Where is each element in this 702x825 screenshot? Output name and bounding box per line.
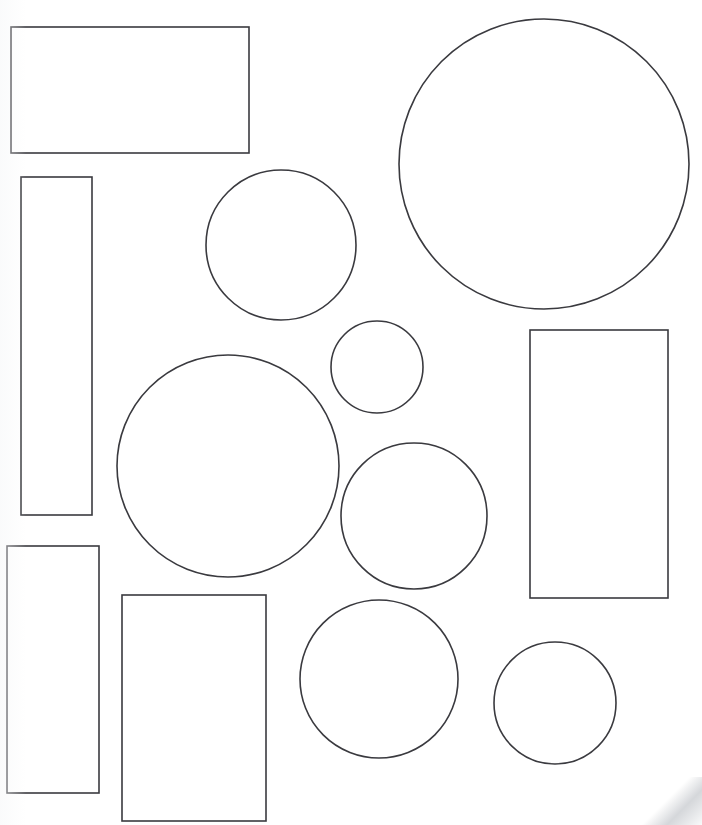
circle-bottom-center	[300, 600, 458, 758]
circle-top-center-medium	[206, 170, 356, 320]
circle-left-large	[117, 355, 339, 577]
circle-bottom-right	[494, 642, 616, 764]
circle-top-right-large	[399, 19, 689, 309]
rect-top-left-wide	[11, 27, 249, 153]
circle-center-right-medium	[341, 443, 487, 589]
rect-right-tall	[530, 330, 668, 598]
rect-bottom-left	[7, 546, 99, 793]
worksheet-page	[0, 0, 702, 825]
rect-left-tall-narrow	[21, 177, 92, 515]
shape-layer	[7, 19, 689, 821]
circle-center-small	[331, 321, 423, 413]
rect-bottom-center	[122, 595, 266, 821]
shape-canvas	[0, 0, 702, 825]
